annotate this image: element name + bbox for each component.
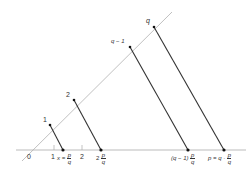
axis-label-2x: 2 pq [96, 152, 106, 165]
p-prefix: p = q · [208, 155, 225, 161]
axis-label-0: 0 [27, 153, 31, 160]
ray-label-q: q [146, 17, 150, 24]
parallel-line-1 [50, 125, 63, 150]
parallel-line-q-minus-1 [130, 47, 188, 150]
thales-division-diagram [0, 0, 252, 171]
axis-label-1: 1 [51, 153, 55, 160]
axis-label-q-minus-1-x: (q − 1) pq [171, 152, 195, 165]
ray-point-q [153, 26, 156, 29]
axis-label-x: x = pq [57, 152, 71, 165]
x-prefix: x = [57, 155, 65, 161]
fraction-p-over-q: pq [67, 152, 71, 165]
fraction-p-over-q: pq [227, 152, 231, 165]
ray-label-2: 2 [66, 91, 70, 98]
ray-point-2 [73, 99, 76, 102]
diagonal-ray [22, 12, 172, 161]
fraction-p-over-q: pq [101, 152, 105, 165]
parallel-line-q [154, 27, 224, 150]
axis-label-p: p = q · pq [208, 152, 231, 165]
ray-label-1: 1 [43, 116, 47, 123]
ray-label-q-minus-1: q − 1 [111, 38, 125, 44]
ray-point-1 [49, 124, 52, 127]
2x-prefix: 2 [96, 155, 99, 161]
axis-label-2: 2 [80, 153, 84, 160]
ray-point-q-minus-1 [129, 46, 132, 49]
parallel-line-2 [74, 100, 101, 150]
fraction-p-over-q: pq [190, 152, 194, 165]
q-minus-1-prefix: (q − 1) [171, 155, 189, 161]
